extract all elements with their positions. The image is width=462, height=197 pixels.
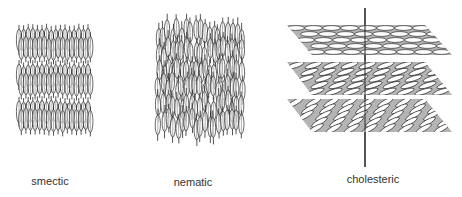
molecule — [433, 50, 451, 55]
molecule — [391, 32, 409, 37]
molecule — [359, 26, 377, 31]
molecule — [311, 44, 329, 49]
molecule — [383, 44, 401, 49]
smectic-figure — [16, 24, 93, 137]
molecule — [343, 50, 361, 55]
molecule — [413, 26, 431, 31]
top-plane — [287, 25, 455, 55]
molecule — [329, 44, 347, 49]
molecule — [401, 44, 419, 49]
molecule — [387, 38, 405, 43]
middle-plane — [286, 60, 455, 97]
molecule — [409, 32, 427, 37]
molecule — [319, 32, 337, 37]
molecule — [307, 50, 325, 55]
cholesteric-label: cholesteric — [347, 173, 400, 185]
molecule — [373, 32, 391, 37]
molecule — [423, 38, 441, 43]
molecule — [379, 50, 397, 55]
molecule — [369, 38, 387, 43]
molecule — [315, 38, 333, 43]
molecule — [427, 32, 445, 37]
nematic-figure — [155, 14, 246, 146]
molecule — [419, 44, 437, 49]
molecule — [351, 38, 369, 43]
molecule — [325, 50, 343, 55]
molecule — [355, 32, 373, 37]
smectic-label: smectic — [31, 175, 68, 187]
molecule — [333, 38, 351, 43]
molecule — [361, 50, 379, 55]
molecule — [437, 44, 455, 49]
cholesteric-figure — [286, 8, 455, 167]
diagram-canvas — [0, 0, 462, 197]
molecule — [397, 50, 415, 55]
molecule — [297, 38, 315, 43]
molecule — [377, 26, 395, 31]
bottom-plane — [287, 96, 455, 136]
molecule — [347, 44, 365, 49]
molecule — [323, 26, 341, 31]
molecule — [337, 32, 355, 37]
liquid-crystal-diagram: smectic nematic cholesteric — [0, 0, 462, 197]
nematic-label: nematic — [174, 176, 213, 188]
molecule — [301, 32, 319, 37]
molecule — [405, 38, 423, 43]
molecule — [287, 26, 305, 31]
molecule — [365, 44, 383, 49]
molecule — [341, 26, 359, 31]
molecule — [395, 26, 413, 31]
molecule — [305, 26, 323, 31]
molecule — [415, 50, 433, 55]
